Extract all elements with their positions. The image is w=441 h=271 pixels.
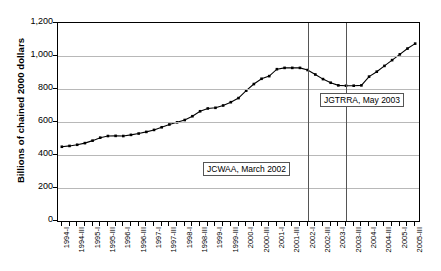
- x-tick-mark: [414, 222, 415, 226]
- gridline: [58, 155, 419, 156]
- x-tick-label: 1998-III: [202, 227, 208, 271]
- x-tick-label: 2004-I: [371, 227, 377, 271]
- x-tick-mark: [291, 222, 292, 226]
- x-tick-mark: [368, 222, 369, 226]
- x-tick-label: 2005-I: [402, 227, 408, 271]
- x-tick-mark: [299, 222, 300, 226]
- x-tick-mark: [230, 222, 231, 226]
- x-tick-mark: [207, 222, 208, 226]
- plot-area: [57, 22, 420, 222]
- x-tick-mark: [399, 222, 400, 226]
- x-tick-label: 2002-I: [310, 227, 316, 271]
- x-tick-mark: [99, 222, 100, 226]
- y-tick-label: 800: [6, 83, 53, 92]
- x-tick-mark: [307, 222, 308, 226]
- x-tick-mark: [314, 222, 315, 226]
- x-tick-mark: [107, 222, 108, 226]
- gridline: [58, 188, 419, 189]
- y-tick-label: 400: [6, 149, 53, 158]
- annotation-jgtrra: JGTRRA, May 2003: [320, 93, 404, 107]
- x-tick-mark: [322, 222, 323, 226]
- x-tick-mark: [284, 222, 285, 226]
- x-tick-mark: [276, 222, 277, 226]
- x-tick-label: 2003-III: [356, 227, 362, 271]
- x-tick-mark: [161, 222, 162, 226]
- x-tick-mark: [84, 222, 85, 226]
- x-tick-label: 2001-I: [279, 227, 285, 271]
- event-marker-line: [308, 23, 309, 221]
- x-tick-mark: [345, 222, 346, 226]
- x-tick-mark: [145, 222, 146, 226]
- annotation-jcwaa: JCWAA, March 2002: [203, 162, 290, 176]
- x-tick-label: 2000-I: [248, 227, 254, 271]
- x-tick-label: 1994-III: [79, 227, 85, 271]
- y-tick-label: 1,200: [6, 17, 53, 26]
- x-tick-label: 1997-I: [156, 227, 162, 271]
- x-tick-mark: [268, 222, 269, 226]
- x-tick-mark: [168, 222, 169, 226]
- x-tick-mark: [138, 222, 139, 226]
- x-tick-mark: [391, 222, 392, 226]
- gridline: [58, 122, 419, 123]
- y-tick-label: 0: [6, 215, 53, 224]
- x-tick-mark: [353, 222, 354, 226]
- gridline: [58, 89, 419, 90]
- x-tick-label: 1997-III: [171, 227, 177, 271]
- x-tick-mark: [376, 222, 377, 226]
- x-tick-mark: [76, 222, 77, 226]
- x-tick-mark: [406, 222, 407, 226]
- x-tick-mark: [199, 222, 200, 226]
- y-tick-label: 600: [6, 116, 53, 125]
- x-tick-label: 1995-III: [110, 227, 116, 271]
- x-tick-mark: [222, 222, 223, 226]
- x-tick-mark: [130, 222, 131, 226]
- x-tick-label: 1996-I: [125, 227, 131, 271]
- x-tick-mark: [184, 222, 185, 226]
- y-axis-ticks: 02004006008001,0001,200: [0, 22, 53, 222]
- x-tick-label: 2001-III: [294, 227, 300, 271]
- x-tick-mark: [153, 222, 154, 226]
- x-tick-mark: [61, 222, 62, 226]
- event-marker-line: [346, 23, 347, 221]
- x-tick-mark: [214, 222, 215, 226]
- x-tick-mark: [92, 222, 93, 226]
- x-tick-label: 1995-I: [95, 227, 101, 271]
- x-tick-label: 2005-III: [417, 227, 423, 271]
- x-tick-mark: [191, 222, 192, 226]
- x-tick-mark: [245, 222, 246, 226]
- x-tick-label: 2004-III: [386, 227, 392, 271]
- x-tick-label: 1994-I: [64, 227, 70, 271]
- x-tick-mark: [69, 222, 70, 226]
- x-tick-mark: [253, 222, 254, 226]
- x-tick-label: 2002-III: [325, 227, 331, 271]
- x-tick-mark: [261, 222, 262, 226]
- x-tick-mark: [176, 222, 177, 226]
- y-tick-label: 200: [6, 182, 53, 191]
- y-tick-label: 1,000: [6, 50, 53, 59]
- x-tick-label: 2003-I: [340, 227, 346, 271]
- x-tick-mark: [360, 222, 361, 226]
- x-tick-mark: [330, 222, 331, 226]
- x-tick-label: 1996-III: [141, 227, 147, 271]
- gridline: [58, 56, 419, 57]
- x-tick-mark: [383, 222, 384, 226]
- x-tick-label: 2000-III: [264, 227, 270, 271]
- x-tick-mark: [238, 222, 239, 226]
- chart-root: Billions of chained 2000 dollars 0200400…: [0, 0, 441, 271]
- x-tick-label: 1998-I: [187, 227, 193, 271]
- x-tick-label: 1999-I: [217, 227, 223, 271]
- x-tick-mark: [337, 222, 338, 226]
- x-axis-labels: 1994-I1994-III1995-I1995-III1996-I1996-I…: [57, 227, 420, 271]
- x-tick-mark: [115, 222, 116, 226]
- x-tick-label: 1999-III: [233, 227, 239, 271]
- x-tick-mark: [122, 222, 123, 226]
